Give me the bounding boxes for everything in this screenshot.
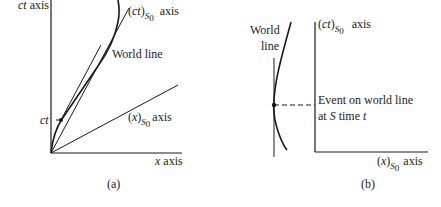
panel-b: [274, 22, 428, 157]
ct-axis-label: ct axis: [18, 0, 49, 12]
event-dot-a: [59, 118, 63, 122]
caption-b: (b): [361, 177, 375, 191]
ct-event-label: ct: [40, 113, 49, 127]
x-s0-axis-label-a: (x)S0axis: [128, 110, 172, 129]
ct-s0-axis-line: [51, 8, 129, 153]
event-label-line2: at S time t: [318, 109, 367, 123]
caption-a: (a): [107, 177, 120, 191]
event-label-line1: Event on world line: [318, 93, 413, 107]
tangent-line: [62, 45, 101, 118]
ct-s0-axis-label-a: (ct)S0axis: [128, 4, 179, 23]
event-dot-b: [272, 103, 276, 107]
ct-s0-axis-label-b: (ct)S0axis: [318, 17, 371, 36]
x-axis-label: x axis: [154, 154, 183, 168]
world-line-label-b-1: World: [250, 23, 280, 37]
world-line-curve: [51, 0, 119, 153]
spacetime-diagram: ct axis x axis (ct)S0axis World line (x)…: [0, 0, 441, 207]
x-s0-axis-label-b: (x)S0axis: [377, 154, 423, 173]
world-line-label-b-2: line: [261, 39, 279, 53]
panel-a: [51, 0, 182, 153]
world-line-label-a: World line: [112, 47, 163, 61]
